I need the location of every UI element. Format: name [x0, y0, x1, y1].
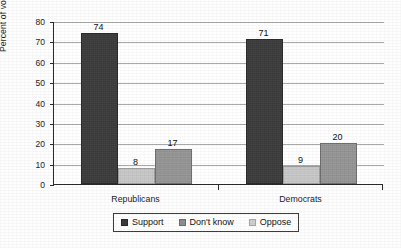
data-label: 71	[245, 29, 282, 38]
data-label: 9	[282, 156, 319, 165]
legend-item[interactable]: Don't know	[179, 218, 234, 227]
y-axis-tick-label: 20	[22, 140, 45, 149]
y-axis-tick	[50, 165, 54, 166]
y-axis-title: Percent of voters	[0, 0, 8, 52]
bar-texture	[156, 150, 191, 183]
legend-swatch-icon	[121, 219, 128, 226]
y-axis-tick-label: 40	[22, 100, 45, 109]
data-label: 8	[117, 158, 154, 167]
y-axis-tick-label: 0	[22, 181, 45, 190]
y-axis-tick-label: 80	[22, 18, 45, 27]
legend-swatch-icon	[249, 219, 256, 226]
legend-label: Support	[132, 218, 164, 227]
y-axis-tick-label: 10	[22, 161, 45, 170]
bar-support-democrats	[246, 39, 283, 184]
y-axis-tick-label: 50	[22, 79, 45, 88]
y-axis-tick	[50, 144, 54, 145]
legend-item[interactable]: Support	[121, 218, 164, 227]
x-axis-category-label: Republicans	[91, 195, 181, 204]
bar-oppose-democrats	[320, 143, 357, 184]
data-label: 17	[154, 139, 191, 148]
legend-label: Oppose	[260, 218, 292, 227]
bar-texture	[247, 40, 282, 183]
y-axis-tick	[50, 83, 54, 84]
x-axis-tick	[218, 185, 219, 190]
y-axis-tick	[50, 42, 54, 43]
plot-area	[53, 22, 383, 185]
y-axis-tick-label: 70	[22, 38, 45, 47]
x-axis-tick	[382, 185, 383, 190]
bar-texture	[321, 144, 356, 183]
legend-label: Don't know	[190, 218, 234, 227]
chart-legend: SupportDon't knowOppose	[113, 213, 299, 232]
y-axis-tick	[50, 124, 54, 125]
data-label: 20	[319, 133, 356, 142]
bar-support-republicans	[81, 33, 118, 184]
bar-texture	[284, 167, 319, 183]
y-axis-tick	[50, 104, 54, 105]
y-axis-tick-label: 60	[22, 59, 45, 68]
bar-don-t-know-republicans	[118, 168, 155, 184]
bar-texture	[119, 169, 154, 183]
y-axis-tick	[50, 63, 54, 64]
x-axis-category-label: Democrats	[256, 195, 346, 204]
y-axis-tick-label: 30	[22, 120, 45, 129]
y-axis-tick	[50, 185, 54, 186]
bar-oppose-republicans	[155, 149, 192, 184]
data-label: 74	[80, 23, 117, 32]
bar-texture	[82, 34, 117, 183]
bar-don-t-know-democrats	[283, 166, 320, 184]
y-axis-tick	[50, 22, 54, 23]
legend-swatch-icon	[179, 219, 186, 226]
legend-item[interactable]: Oppose	[249, 218, 292, 227]
chart-figure: Percent of voters 80706050403020100 Repu…	[0, 0, 401, 248]
